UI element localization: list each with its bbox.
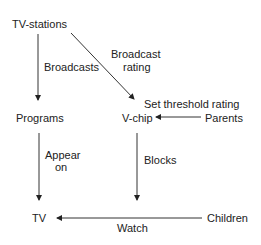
label-blocks: Blocks <box>144 154 176 166</box>
node-v-chip: V-chip <box>122 112 153 124</box>
diagram-canvas: TV-stations Programs V-chip Parents TV C… <box>0 0 261 245</box>
label-broadcast-rating-line1: Broadcast <box>111 48 161 60</box>
node-parents: Parents <box>205 112 243 124</box>
node-programs: Programs <box>16 112 64 124</box>
label-appear-on-line1: Appear <box>45 149 80 161</box>
node-tv: TV <box>32 212 46 224</box>
label-appear-on-line2: on <box>55 161 67 173</box>
label-watch: Watch <box>117 222 148 234</box>
label-broadcasts: Broadcasts <box>44 61 99 73</box>
label-set-threshold-rating: Set threshold rating <box>144 98 239 110</box>
label-broadcast-rating-line2: rating <box>123 61 151 73</box>
node-children: Children <box>207 212 248 224</box>
node-tv-stations: TV-stations <box>12 18 67 30</box>
